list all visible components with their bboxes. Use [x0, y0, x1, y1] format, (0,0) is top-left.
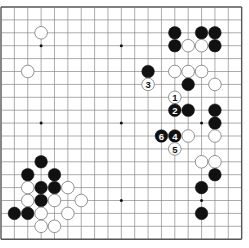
stone-circle [209, 78, 222, 91]
stone-circle [62, 207, 75, 220]
white-stone [21, 194, 34, 207]
stone-circle [209, 27, 222, 40]
black-stone [209, 27, 222, 40]
white-stone-move-3: 3 [142, 78, 155, 91]
move-number-label: 5 [172, 144, 178, 155]
go-board: 312645 [0, 0, 249, 248]
black-stone [35, 194, 48, 207]
stone-circle [62, 181, 75, 194]
black-stone-move-2: 2 [169, 104, 182, 117]
black-stone [35, 156, 48, 169]
stone-circle [35, 220, 48, 233]
stone-circle [182, 78, 195, 91]
star-point [200, 122, 203, 125]
black-stone [8, 207, 21, 220]
stone-circle [209, 156, 222, 169]
stone-circle [182, 39, 195, 52]
stone-circle [182, 104, 195, 117]
white-stone [75, 194, 88, 207]
star-point [40, 44, 43, 47]
stone-circle [195, 156, 208, 169]
white-stone-move-1: 1 [169, 91, 182, 104]
white-stone [209, 156, 222, 169]
black-stone-move-4: 4 [169, 130, 182, 143]
black-stone [182, 78, 195, 91]
move-number-label: 2 [172, 105, 177, 116]
white-stone [21, 65, 34, 78]
stone-circle [48, 168, 61, 181]
black-stone [195, 27, 208, 40]
white-stone [35, 27, 48, 40]
stone-circle [182, 130, 195, 143]
black-stone [182, 104, 195, 117]
stone-circle [21, 207, 34, 220]
stone-circle [21, 181, 34, 194]
black-stone [21, 168, 34, 181]
stone-circle [195, 207, 208, 220]
white-stone [195, 65, 208, 78]
stone-circle [195, 181, 208, 194]
white-stone [21, 181, 34, 194]
black-stone [48, 168, 61, 181]
white-stone-move-5: 5 [169, 143, 182, 156]
black-stone [195, 181, 208, 194]
black-stone [209, 117, 222, 130]
stone-circle [48, 220, 61, 233]
stone-circle [35, 156, 48, 169]
black-stone [142, 65, 155, 78]
white-stone [209, 78, 222, 91]
stone-circle [169, 39, 182, 52]
black-stone-move-6: 6 [155, 130, 168, 143]
stone-circle [21, 65, 34, 78]
white-stone [195, 156, 208, 169]
stone-circle [209, 117, 222, 130]
white-stone [182, 39, 195, 52]
stone-circle [35, 207, 48, 220]
stone-circle [195, 27, 208, 40]
white-stone [35, 207, 48, 220]
star-point [120, 122, 123, 125]
stone-circle [209, 130, 222, 143]
white-stone [182, 65, 195, 78]
white-stone [62, 207, 75, 220]
stone-circle [209, 104, 222, 117]
black-stone [195, 207, 208, 220]
stone-circle [35, 181, 48, 194]
stone-circle [169, 27, 182, 40]
star-point [120, 199, 123, 202]
stone-circle [75, 194, 88, 207]
white-stone [169, 65, 182, 78]
move-number-label: 3 [145, 79, 150, 90]
stone-circle [209, 39, 222, 52]
stone-circle [209, 168, 222, 181]
white-stone [35, 220, 48, 233]
move-number-label: 1 [172, 92, 178, 103]
black-stone [48, 181, 61, 194]
move-number-label: 4 [172, 131, 178, 142]
black-stone [209, 39, 222, 52]
black-stone [169, 39, 182, 52]
white-stone [48, 194, 61, 207]
stone-circle [8, 207, 21, 220]
stone-circle [21, 168, 34, 181]
black-stone [209, 104, 222, 117]
star-point [40, 122, 43, 125]
white-stone [62, 181, 75, 194]
star-point [200, 199, 203, 202]
stone-circle [48, 194, 61, 207]
stone-circle [169, 65, 182, 78]
white-stone [209, 130, 222, 143]
stone-circle [21, 194, 34, 207]
black-stone [209, 168, 222, 181]
stone-circle [142, 65, 155, 78]
black-stone [35, 181, 48, 194]
stone-circle [195, 65, 208, 78]
stone-circle [195, 39, 208, 52]
stone-circle [182, 65, 195, 78]
black-stone [21, 207, 34, 220]
stone-circle [48, 181, 61, 194]
move-number-label: 6 [159, 131, 164, 142]
black-stone [169, 27, 182, 40]
stone-circle [35, 194, 48, 207]
stone-circle [35, 27, 48, 40]
